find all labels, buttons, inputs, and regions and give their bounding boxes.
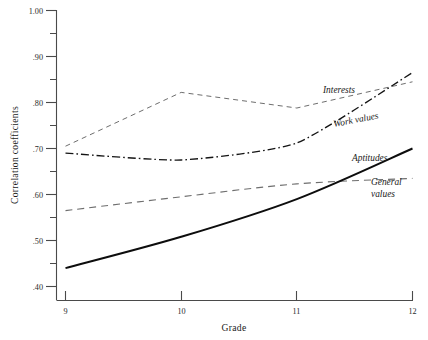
line-chart-svg: 1.00 .90 .80 .70 .60 .50 .40 Correlation… — [0, 0, 428, 340]
series-label-general-values-line2: values — [371, 189, 395, 199]
chart-figure: 1.00 .90 .80 .70 .60 .50 .40 Correlation… — [0, 0, 428, 340]
y-tick-label-0-70: .70 — [33, 145, 43, 154]
y-tick-label-0-50: .50 — [33, 237, 43, 246]
y-tick-label-0-90: .90 — [33, 53, 43, 62]
y-tick-label-0-40: .40 — [33, 283, 43, 292]
series-label-interests: Interests — [322, 85, 355, 95]
x-axis-title: Grade — [222, 322, 247, 333]
y-tick-label-0-60: .60 — [33, 191, 43, 200]
y-tick-label-0-80: .80 — [33, 99, 43, 108]
x-tick-label-12: 12 — [408, 307, 416, 316]
series-label-general-values-line1: General — [371, 177, 402, 187]
series-label-aptitudes: Aptitudes — [351, 153, 388, 163]
x-tick-label-10: 10 — [177, 307, 185, 316]
y-tick-label-1-00: 1.00 — [29, 7, 43, 16]
x-tick-label-9: 9 — [63, 307, 67, 316]
y-axis-title: Correlation coefficients — [9, 106, 20, 204]
x-tick-label-11: 11 — [293, 307, 301, 316]
